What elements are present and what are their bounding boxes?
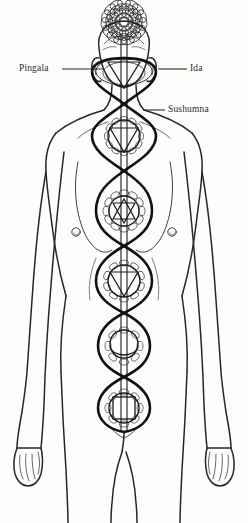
chakra-figure-illustration (0, 0, 248, 523)
chakra-diagram-canvas: Pingala Ida Sushumna (0, 0, 248, 523)
diagram-background (0, 0, 248, 523)
label-ida: Ida (190, 64, 203, 74)
label-sushumna: Sushumna (168, 105, 209, 115)
label-pingala: Pingala (19, 64, 49, 74)
